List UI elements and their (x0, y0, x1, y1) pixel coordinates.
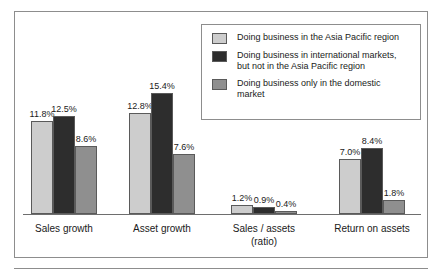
legend-label-line: Doing business in international markets, (237, 50, 397, 61)
bar (275, 211, 297, 214)
legend-label: Doing business only in the domesticmarke… (237, 78, 381, 100)
bar-value-label: 1.8% (384, 188, 405, 198)
bar-value-label: 12.8% (127, 101, 153, 111)
bar (231, 205, 253, 214)
bar (75, 146, 97, 214)
bar-value-label: 8.6% (76, 134, 97, 144)
chart-frame: 11.8%12.5%8.6%12.8%15.4%7.6%1.2%0.9%0.4%… (14, 11, 428, 258)
legend-label: Doing business in the Asia Pacific regio… (237, 32, 399, 43)
bar-wrapper: 11.8% (31, 54, 53, 214)
bar-wrapper: 8.6% (75, 54, 97, 214)
bar-value-label: 15.4% (149, 81, 175, 91)
bar-value-label: 7.0% (340, 147, 361, 157)
legend-label-line: but not in the Asia Pacific region (237, 61, 397, 72)
bar-wrapper: 7.6% (173, 54, 195, 214)
bar (129, 113, 151, 214)
bar (361, 148, 383, 214)
x-axis-category-label: Return on assets (312, 222, 432, 235)
legend-label: Doing business in international markets,… (237, 50, 397, 72)
legend-swatch-icon (212, 33, 227, 44)
legend-item: Doing business only in the domesticmarke… (212, 78, 414, 100)
legend-label-line: Doing business in the Asia Pacific regio… (237, 32, 399, 43)
legend-swatch-icon (212, 79, 227, 90)
legend-items: Doing business in the Asia Pacific regio… (212, 32, 414, 100)
bar-value-label: 0.4% (276, 199, 297, 209)
bar (253, 207, 275, 214)
bottom-divider (14, 268, 428, 269)
bar-wrapper: 15.4% (151, 54, 173, 214)
bar (173, 154, 195, 214)
bar-value-label: 8.4% (362, 136, 383, 146)
bar (53, 116, 75, 214)
legend-swatch-icon (212, 51, 227, 62)
bar-value-label: 12.5% (51, 104, 77, 114)
chart-legend: Doing business in the Asia Pacific regio… (201, 24, 421, 120)
legend-item: Doing business in the Asia Pacific regio… (212, 32, 414, 44)
bar (31, 121, 53, 214)
legend-label-line: market (237, 89, 381, 100)
bar (383, 200, 405, 214)
x-axis-category-line: (ratio) (204, 235, 324, 248)
chart-page: 11.8%12.5%8.6%12.8%15.4%7.6%1.2%0.9%0.4%… (0, 0, 442, 279)
bar-value-label: 7.6% (174, 142, 195, 152)
bar-wrapper: 12.5% (53, 54, 75, 214)
bar (151, 93, 173, 214)
bar-wrapper: 12.8% (129, 54, 151, 214)
x-axis-category-label: Sales / assets(ratio) (204, 222, 324, 248)
bar-group: 12.8%15.4%7.6% (129, 54, 195, 214)
legend-item: Doing business in international markets,… (212, 50, 414, 72)
x-axis-category-line: Return on assets (312, 222, 432, 235)
x-axis-category-line: Sales / assets (204, 222, 324, 235)
bar-group: 11.8%12.5%8.6% (31, 54, 97, 214)
legend-label-line: Doing business only in the domestic (237, 78, 381, 89)
bar-value-label: 0.9% (254, 195, 275, 205)
bar (339, 159, 361, 214)
bar-value-label: 1.2% (232, 193, 253, 203)
x-axis-line (23, 214, 421, 215)
